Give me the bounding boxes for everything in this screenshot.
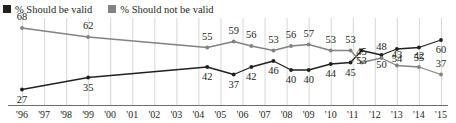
data-point-marker [232,73,236,77]
data-label: 60 [436,45,447,56]
data-point-marker [272,59,276,63]
x-tick-label: '04 [193,109,205,120]
data-label: 57 [303,29,314,40]
chart-legend: % Should be valid % Should not be valid [0,0,456,18]
chart-container: % Should be valid % Should not be valid … [0,0,456,123]
data-label: 62 [83,21,94,32]
data-label: 40 [286,75,297,86]
data-point-marker [329,49,333,53]
data-point-marker [439,38,443,42]
data-point-marker [272,49,276,53]
data-point-marker [289,68,293,72]
data-point-marker [349,49,353,53]
data-label: 42 [202,72,213,83]
data-point-marker [249,65,253,69]
data-label: 27 [17,95,28,106]
x-tick-label: '08 [281,109,293,120]
x-tick-label: '13 [391,109,403,120]
x-tick-label: '06 [237,109,249,120]
data-label: 46 [268,66,279,77]
data-label: 40 [303,75,314,86]
x-tick-label: '00 [104,109,116,120]
data-label: 35 [83,83,94,94]
data-point-marker [349,61,353,65]
data-label: 37 [228,80,239,91]
x-tick-label: '02 [148,109,160,120]
data-label: 37 [436,59,447,70]
x-tick-label: '07 [259,109,271,120]
x-tick-label: '05 [215,109,227,120]
x-tick-label: '96 [16,109,28,120]
x-tick-label: '15 [435,109,447,120]
data-label: 53 [356,56,367,67]
data-label: 44 [325,69,336,80]
data-label: 45 [356,47,367,58]
data-label: 56 [246,30,257,41]
data-point-marker [329,62,333,66]
data-point-marker [20,88,24,92]
data-point-marker [417,46,421,50]
x-tick-label: '01 [126,109,138,120]
data-point-marker [439,73,443,77]
x-tick-label: '09 [303,109,315,120]
x-tick-label: '98 [60,109,72,120]
data-label: 55 [202,32,213,43]
data-label: 56 [286,30,297,41]
data-label: 53 [268,35,279,46]
data-point-marker [289,44,293,48]
data-label: 53 [345,35,356,46]
data-label: 59 [228,26,239,37]
x-axis: '96'97'98'99'00'01'02'03'04'05'06'07'08'… [0,105,456,123]
x-tick-label: '11 [347,109,358,120]
square-marker-gray-icon [108,5,116,13]
data-point-marker [20,26,24,30]
x-tick-label: '97 [38,109,50,120]
x-tick-label: '99 [82,109,94,120]
data-point-marker [205,46,209,50]
data-point-marker [86,76,90,80]
data-label: 42 [414,51,425,62]
data-label: 53 [325,35,336,46]
data-point-marker [249,44,253,48]
data-label: 68 [17,12,28,23]
legend-item-should-not-be-valid: % Should not be valid [108,4,213,15]
data-point-marker [86,35,90,39]
x-tick-label: '10 [325,109,337,120]
data-label: 43 [392,50,403,61]
square-marker-black-icon [3,5,11,13]
x-tick-label: '14 [413,109,425,120]
data-point-marker [205,65,209,69]
data-point-marker [307,43,311,47]
data-label: 48 [376,42,387,53]
data-point-marker [417,65,421,69]
x-tick-label: '12 [369,109,381,120]
data-point-marker [232,40,236,44]
x-tick-label: '03 [170,109,182,120]
legend-label-should-not-be-valid: % Should not be valid [120,4,213,15]
data-point-marker [307,68,311,72]
data-label: 42 [246,72,257,83]
data-label: 45 [345,68,356,79]
x-axis-line [8,105,448,106]
data-label: 50 [376,60,387,71]
